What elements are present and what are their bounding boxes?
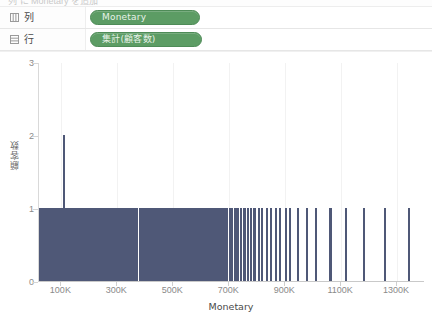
bar[interactable] [329, 208, 331, 281]
x-tick-label: 100K [38, 286, 82, 295]
cut-off-header-strip: 列 に Monetary を追加 [0, 0, 432, 7]
bar[interactable] [297, 208, 299, 281]
bar[interactable] [384, 208, 386, 281]
bar[interactable] [279, 208, 281, 281]
columns-shelf[interactable]: 列 Monetary [0, 7, 432, 29]
bar[interactable] [250, 208, 252, 281]
rows-shelf-label: 行 [24, 35, 34, 45]
columns-shelf-label: 列 [24, 13, 34, 23]
pill-monetary[interactable]: Monetary [90, 10, 200, 25]
bar[interactable] [240, 208, 242, 281]
x-tick-label: 900K [262, 286, 306, 295]
pill-sum-customer-count[interactable]: 集計(顧客数) [90, 32, 202, 47]
x-tick-mark [396, 282, 397, 286]
y-tick-label: 2 [12, 132, 34, 141]
x-axis-title: Monetary [38, 302, 424, 312]
x-tick-label: 1100K [318, 286, 362, 295]
y-axis-title: 顧客数 [10, 140, 24, 170]
bar[interactable] [236, 208, 238, 281]
viz-canvas[interactable]: 顧客数 0123 100K300K500K700K900K1100K1300K … [0, 51, 432, 316]
columns-grid-icon [10, 13, 19, 22]
columns-shelf-label-box: 列 [0, 7, 86, 28]
bar[interactable] [261, 208, 263, 281]
x-tick-mark [172, 282, 173, 286]
x-tick-label: 300K [94, 286, 138, 295]
x-tick-mark [228, 282, 229, 286]
x-tick-mark [340, 282, 341, 286]
bar[interactable] [363, 208, 365, 281]
cut-off-header-text: 列 に Monetary を追加 [8, 0, 98, 7]
bar[interactable] [289, 208, 291, 281]
bar[interactable] [258, 208, 260, 281]
bar[interactable] [253, 208, 255, 281]
bar-series[interactable] [39, 63, 424, 281]
rows-shelf[interactable]: 行 集計(顧客数) [0, 29, 432, 51]
x-tick-mark [116, 282, 117, 286]
rows-list-icon [10, 35, 19, 44]
bar[interactable] [266, 208, 268, 281]
bar[interactable] [243, 208, 245, 281]
y-tick-label: 0 [12, 278, 34, 287]
bar[interactable] [247, 208, 249, 281]
rows-shelf-dropzone[interactable]: 集計(顧客数) [86, 29, 432, 50]
plot-area[interactable] [38, 63, 424, 282]
x-tick-label: 500K [150, 286, 194, 295]
bar[interactable] [285, 208, 287, 281]
tableau-viz-window: 列 に Monetary を追加 列 Monetary 行 集計(顧客数) [0, 0, 432, 316]
bar[interactable] [345, 208, 347, 281]
y-tick-label: 3 [12, 59, 34, 68]
bar[interactable] [136, 208, 138, 281]
bar[interactable] [225, 208, 227, 281]
bar[interactable] [408, 208, 410, 281]
rows-shelf-label-box: 行 [0, 29, 86, 50]
plot-inner [39, 63, 424, 281]
x-tick-mark [60, 282, 61, 286]
columns-shelf-dropzone[interactable]: Monetary [86, 7, 432, 28]
x-tick-label: 1300K [374, 286, 418, 295]
bar[interactable] [275, 208, 277, 281]
y-tick-mark [33, 282, 38, 283]
x-tick-label: 700K [206, 286, 250, 295]
x-tick-mark [284, 282, 285, 286]
y-tick-label: 1 [12, 205, 34, 214]
bar[interactable] [231, 208, 233, 281]
bar[interactable] [315, 208, 317, 281]
bar[interactable] [306, 208, 308, 281]
bar[interactable] [270, 208, 272, 281]
